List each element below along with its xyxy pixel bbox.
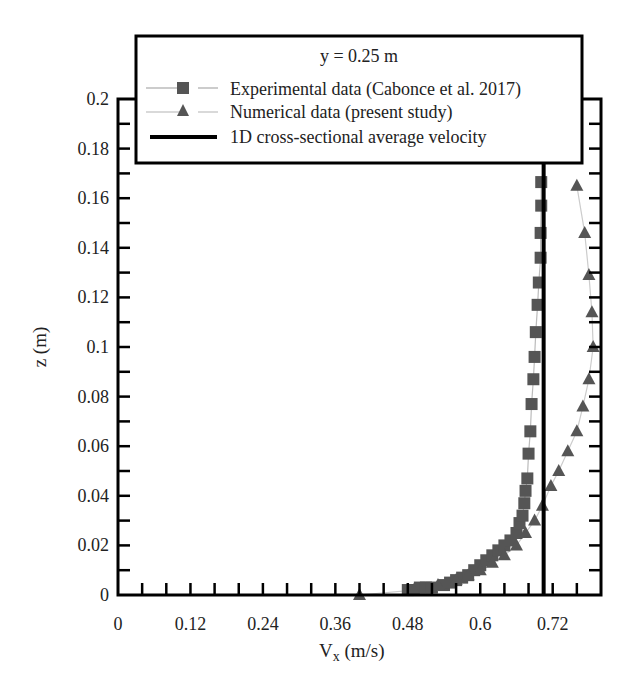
plot-area	[353, 99, 600, 600]
y-axis-label: z (m)	[29, 327, 51, 368]
numerical-point	[570, 179, 583, 191]
axes: 00.120.240.360.480.60.7200.020.040.060.0…	[78, 89, 602, 634]
numerical-point	[544, 479, 557, 491]
x-tick-label: 0.48	[392, 614, 424, 634]
y-tick-label: 0.1	[87, 337, 110, 357]
legend-label-experimental: Experimental data (Cabonce et al. 2017)	[230, 79, 521, 100]
numerical-line	[360, 186, 594, 595]
plot-frame	[118, 99, 601, 595]
y-tick-label: 0.12	[78, 287, 110, 307]
velocity-profile-chart: 00.120.240.360.480.60.7200.020.040.060.0…	[0, 0, 632, 692]
x-axis-label: Vx (m/s)	[319, 640, 385, 664]
legend: y = 0.25 m Experimental data (Cabonce et…	[136, 36, 582, 163]
numerical-point	[528, 514, 541, 526]
numerical-point	[582, 372, 595, 384]
numerical-point	[578, 226, 591, 238]
experimental-point	[524, 425, 536, 437]
experimental-point	[529, 351, 541, 363]
y-tick-label: 0.02	[78, 535, 110, 555]
y-tick-label: 0.18	[78, 139, 110, 159]
experimental-point	[530, 326, 542, 338]
numerical-point	[561, 444, 574, 456]
numerical-point	[582, 268, 595, 280]
legend-label-numerical: Numerical data (present study)	[230, 102, 452, 123]
experimental-point	[517, 510, 529, 522]
square-marker-icon	[177, 82, 189, 94]
experimental-point	[527, 373, 539, 385]
legend-title: y = 0.25 m	[320, 46, 398, 66]
y-tick-label: 0.08	[78, 387, 110, 407]
numerical-point	[552, 464, 565, 476]
experimental-point	[523, 448, 535, 460]
x-tick-label: 0.36	[320, 614, 352, 634]
x-tick-label: 0.72	[537, 614, 569, 634]
experimental-point	[526, 398, 538, 410]
y-tick-label: 0.04	[78, 486, 110, 506]
y-tick-label: 0	[100, 585, 109, 605]
numerical-point	[570, 424, 583, 436]
y-tick-label: 0.06	[78, 436, 110, 456]
y-tick-label: 0.2	[87, 89, 110, 109]
x-tick-label: 0.12	[175, 614, 207, 634]
numerical-point	[576, 400, 589, 412]
legend-label-average-velocity: 1D cross-sectional average velocity	[230, 127, 486, 147]
y-tick-label: 0.14	[78, 238, 110, 258]
x-tick-label: 0.24	[247, 614, 279, 634]
experimental-point	[521, 472, 533, 484]
x-tick-label: 0.6	[469, 614, 492, 634]
x-tick-label: 0	[114, 614, 123, 634]
y-tick-label: 0.16	[78, 188, 110, 208]
experimental-point	[518, 497, 530, 509]
numerical-point	[585, 305, 598, 317]
experimental-point	[520, 485, 532, 497]
